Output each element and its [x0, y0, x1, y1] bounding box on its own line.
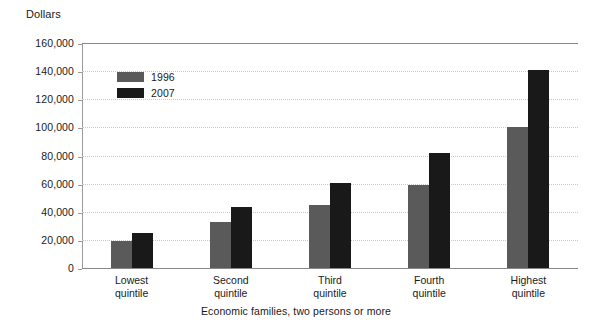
x-axis-category-label: Highest quintile [483, 274, 573, 299]
bar-group [210, 43, 252, 268]
x-axis-category-label: Fourth quintile [384, 274, 474, 299]
bar-group [408, 43, 450, 268]
x-axis-category-label: Third quintile [285, 274, 375, 299]
legend: 1996 2007 [117, 70, 175, 102]
y-axis-tick-label: 20,000 [41, 234, 74, 246]
y-axis-title: Dollars [26, 8, 61, 20]
x-axis-category-label: Lowest quintile [87, 274, 177, 299]
y-axis-tick-label: 120,000 [35, 93, 74, 105]
x-axis-title: Economic families, two persons or more [0, 305, 592, 317]
bar [429, 153, 450, 268]
gridline [82, 268, 578, 269]
bar-group [507, 43, 549, 268]
bar [132, 233, 153, 268]
y-axis-tick-label: 0 [68, 262, 74, 274]
bar [330, 183, 351, 268]
bar [528, 70, 549, 268]
tick-mark [78, 269, 82, 270]
bar-chart: Dollars 020,00040,00060,00080,000100,000… [0, 0, 592, 328]
legend-item: 1996 [117, 70, 175, 84]
legend-item-label: 1996 [151, 71, 175, 83]
y-axis-tick-label: 40,000 [41, 206, 74, 218]
legend-swatch-icon [117, 72, 144, 82]
bar-group [309, 43, 351, 268]
bar [231, 207, 252, 268]
bar [408, 185, 429, 268]
y-axis-tick-label: 80,000 [41, 150, 74, 162]
bar [210, 222, 231, 268]
legend-item: 2007 [117, 86, 175, 100]
x-axis-category-label: Second quintile [186, 274, 276, 299]
bar [309, 205, 330, 268]
legend-item-label: 2007 [151, 87, 175, 99]
y-axis-tick-label: 100,000 [35, 121, 74, 133]
y-axis-tick-label: 140,000 [35, 65, 74, 77]
y-axis-tick-label: 60,000 [41, 178, 74, 190]
bar [111, 241, 132, 268]
y-axis-tick-label: 160,000 [35, 37, 74, 49]
legend-swatch-icon [117, 88, 144, 98]
bar [507, 127, 528, 268]
